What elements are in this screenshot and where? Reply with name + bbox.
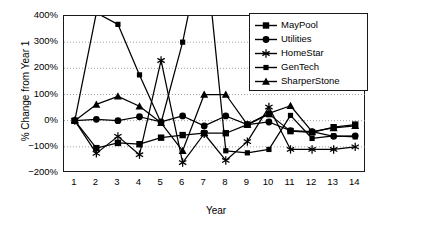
legend-marker-icon xyxy=(253,74,279,87)
data-point-sharperstone xyxy=(287,102,295,109)
data-point-maypool xyxy=(179,132,185,138)
x-axis-tick-label: 10 xyxy=(257,176,279,187)
data-point-gentech xyxy=(137,72,142,77)
data-point-utilities xyxy=(266,119,273,126)
data-point-gentech xyxy=(331,133,336,138)
x-axis-tick-label: 13 xyxy=(322,176,344,187)
legend-marker-icon xyxy=(253,60,279,73)
x-axis-tick-label: 9 xyxy=(235,176,257,187)
x-axis-tick-label: 8 xyxy=(214,176,236,187)
x-axis-tick-labels: 1234567891011121314 xyxy=(0,176,432,190)
data-point-utilities xyxy=(201,123,208,130)
data-point-sharperstone xyxy=(136,102,144,109)
y-axis-tick-label: 300% xyxy=(14,36,58,46)
data-point-maypool xyxy=(158,134,164,140)
legend-marker-icon xyxy=(253,18,279,31)
legend-item-label: Utilities xyxy=(279,32,312,45)
legend-marker-glyph xyxy=(263,64,268,69)
data-point-gentech xyxy=(115,22,120,27)
x-axis-tick-label: 2 xyxy=(84,176,106,187)
legend-item-sharperstone[interactable]: SharperStone xyxy=(253,73,363,87)
data-point-sharperstone xyxy=(114,92,122,99)
data-point-gentech xyxy=(245,150,250,155)
legend-marker-glyph xyxy=(263,36,270,43)
x-axis-tick-label: 11 xyxy=(279,176,301,187)
data-point-utilities xyxy=(287,127,294,134)
chart-figure: % Change from Year 1 Year 400%300%200%10… xyxy=(0,0,432,226)
data-point-maypool xyxy=(115,140,121,146)
data-point-gentech xyxy=(223,148,228,153)
legend-marker-icon xyxy=(253,46,279,59)
x-axis-tick-label: 3 xyxy=(106,176,128,187)
x-axis-tick-label: 14 xyxy=(343,176,365,187)
data-point-utilities xyxy=(222,113,229,120)
x-axis-tick-label: 7 xyxy=(192,176,214,187)
legend-item-maypool[interactable]: MayPool xyxy=(253,17,363,31)
data-point-utilities xyxy=(136,113,143,120)
data-point-gentech xyxy=(266,147,271,152)
y-axis-tick-label: 400% xyxy=(14,10,58,20)
x-axis-tick-label: 1 xyxy=(63,176,85,187)
legend-item-label: SharperStone xyxy=(279,74,340,87)
data-point-homestar xyxy=(157,56,164,64)
y-axis-tick-labels: 400%300%200%100%0%−100%−200% xyxy=(10,0,58,226)
y-axis-tick-label: −100% xyxy=(14,141,58,151)
x-axis-tick-label: 12 xyxy=(300,176,322,187)
legend-item-label: GenTech xyxy=(279,60,319,73)
data-point-gentech xyxy=(353,134,358,139)
data-point-utilities xyxy=(115,117,122,124)
legend: MayPoolUtilitiesHomeStarGenTechSharperSt… xyxy=(249,13,368,91)
x-axis-tick-label: 6 xyxy=(171,176,193,187)
x-axis-tick-label: 4 xyxy=(128,176,150,187)
data-point-gentech xyxy=(309,136,314,141)
x-axis-tick-label: 5 xyxy=(149,176,171,187)
legend-item-utilities[interactable]: Utilities xyxy=(253,31,363,45)
legend-item-label: HomeStar xyxy=(279,46,324,59)
legend-marker-glyph xyxy=(263,22,269,28)
data-point-utilities xyxy=(93,116,100,123)
y-axis-tick-label: 0% xyxy=(14,115,58,125)
y-axis-tick-label: 200% xyxy=(14,62,58,72)
data-point-utilities xyxy=(179,113,186,120)
legend-marker-icon xyxy=(253,32,279,45)
data-point-gentech xyxy=(288,113,293,118)
x-axis-title: Year xyxy=(0,205,432,217)
data-point-gentech xyxy=(180,40,185,45)
legend-item-homestar[interactable]: HomeStar xyxy=(253,45,363,59)
legend-item-label: MayPool xyxy=(279,18,318,31)
y-axis-tick-label: 100% xyxy=(14,89,58,99)
legend-item-gentech[interactable]: GenTech xyxy=(253,59,363,73)
